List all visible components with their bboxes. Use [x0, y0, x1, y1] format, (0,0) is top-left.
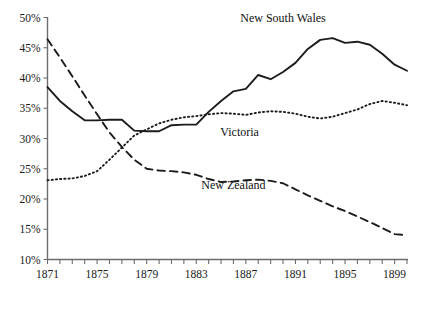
y-axis-label-50%: 50%: [19, 12, 41, 24]
y-axis-label-45%: 45%: [19, 42, 41, 54]
y-axis-label-35%: 35%: [19, 102, 41, 114]
x-axis-label-1899: 1899: [383, 268, 406, 280]
x-axis-label-1879: 1879: [135, 268, 158, 280]
y-axis-label-25%: 25%: [19, 163, 41, 175]
y-axis-label-15%: 15%: [19, 223, 41, 235]
x-axis-label-1875: 1875: [86, 268, 109, 280]
y-axis-label-10%: 10%: [19, 254, 41, 266]
series-label-new-zealand: New Zealand: [201, 178, 265, 192]
chart-plot-area: 50%45%40%35%30%25%20%15%10% 187118751879…: [0, 0, 435, 311]
x-axis-label-1883: 1883: [185, 268, 208, 280]
y-axis-label-30%: 30%: [19, 133, 41, 145]
series-label-victoria: Victoria: [220, 125, 259, 139]
y-axis-label-40%: 40%: [19, 72, 41, 84]
series-label-new-south-wales: New South Wales: [240, 11, 326, 25]
y-axis-label-20%: 20%: [19, 193, 41, 205]
x-axis-label-1887: 1887: [234, 268, 257, 280]
y-axis-tick-labels: 50%45%40%35%30%25%20%15%10%: [19, 12, 41, 266]
line-chart: 50%45%40%35%30%25%20%15%10% 187118751879…: [0, 0, 435, 311]
x-axis-label-1891: 1891: [284, 268, 307, 280]
x-axis-tick-labels: 18711875187918831887189118951899: [36, 268, 406, 280]
series-line-victoria: [48, 101, 408, 180]
series-line-new-south-wales: [48, 38, 408, 131]
x-axis-label-1895: 1895: [334, 268, 357, 280]
x-axis-label-1871: 1871: [36, 268, 59, 280]
